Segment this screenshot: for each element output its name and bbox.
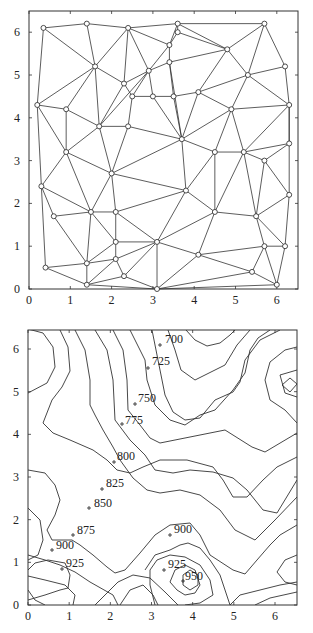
sample-point-marker	[84, 21, 89, 26]
contour-line	[277, 555, 297, 585]
x-tick-label: 3	[150, 293, 156, 307]
edge	[66, 152, 91, 212]
y-tick-label: 4	[13, 427, 19, 441]
edge	[54, 212, 91, 216]
edge	[37, 66, 95, 105]
edge	[157, 242, 198, 255]
x-tick-label: 5	[231, 609, 237, 623]
sample-point-marker	[126, 25, 131, 30]
sample-point-marker	[64, 107, 69, 112]
x-tick-label: 1	[67, 293, 73, 307]
edge	[128, 126, 182, 139]
contour-plot: 0123456012345670072575077580082585087590…	[13, 329, 297, 623]
sample-point-marker	[39, 184, 44, 189]
y-tick-label: 6	[14, 25, 20, 39]
x-tick-label: 4	[191, 293, 197, 307]
sample-point-marker	[287, 192, 292, 197]
contour-level-label: 925	[168, 557, 186, 571]
edge	[248, 24, 265, 75]
edge	[149, 71, 153, 97]
edge	[215, 109, 232, 152]
sample-point-marker	[283, 244, 288, 249]
edge	[244, 152, 256, 216]
sample-point-marker	[155, 239, 160, 244]
x-tick-label: 3	[149, 609, 155, 623]
contour-level-label: 800	[117, 449, 135, 463]
edge	[182, 109, 232, 139]
edge	[116, 212, 157, 242]
edge	[248, 66, 285, 75]
edge	[124, 28, 128, 84]
x-tick-label: 2	[109, 293, 115, 307]
contour-line	[28, 329, 55, 393]
edge	[182, 139, 215, 152]
edge	[37, 105, 66, 152]
edge	[87, 212, 91, 263]
x-tick-label: 4	[190, 609, 196, 623]
sample-point-marker	[113, 209, 118, 214]
x-tick-label: 1	[66, 609, 72, 623]
sample-point-marker	[150, 94, 155, 99]
contour-level-label: 825	[106, 476, 124, 490]
edge	[231, 109, 243, 152]
edge	[231, 105, 289, 109]
edge	[227, 49, 248, 75]
edge	[91, 173, 112, 212]
edge	[264, 161, 289, 195]
edge	[41, 186, 91, 212]
edge	[46, 268, 87, 285]
edge	[128, 96, 132, 126]
x-tick-label: 0	[25, 609, 31, 623]
edge	[124, 242, 157, 276]
y-tick-label: 5	[14, 68, 20, 82]
y-tick-label: 0	[14, 282, 20, 296]
edge	[244, 152, 265, 161]
sample-point-marker	[241, 150, 246, 155]
sample-point-marker	[84, 261, 89, 266]
edge	[248, 75, 289, 105]
x-tick-label: 6	[272, 609, 278, 623]
sample-point-marker	[262, 244, 267, 249]
edge	[256, 161, 264, 217]
sample-point-marker	[274, 282, 279, 287]
sample-point-marker	[171, 94, 176, 99]
edge	[66, 152, 111, 173]
sample-point-marker	[250, 269, 255, 274]
edge	[198, 49, 227, 92]
x-tick-label: 2	[107, 609, 113, 623]
edge	[66, 126, 99, 152]
edge	[66, 109, 99, 126]
edge	[41, 186, 53, 216]
edge	[285, 66, 289, 105]
edge	[87, 242, 116, 263]
edge	[43, 28, 95, 67]
sample-point-marker	[196, 90, 201, 95]
sample-point-marker	[167, 43, 172, 48]
edge	[198, 212, 215, 255]
sample-point-marker	[212, 209, 217, 214]
contour-level-label: 725	[152, 354, 170, 368]
sample-point-marker	[109, 171, 114, 176]
sample-point-marker	[287, 102, 292, 107]
edge	[285, 195, 289, 246]
sample-point-marker	[179, 137, 184, 142]
sample-point-marker	[287, 141, 292, 146]
sample-point-marker	[283, 64, 288, 69]
contour-line	[265, 347, 297, 423]
contour-line	[28, 576, 75, 605]
edge	[37, 105, 66, 109]
edge	[128, 28, 169, 45]
sample-point-marker	[121, 274, 126, 279]
sample-point-marker	[229, 107, 234, 112]
sample-point-marker	[245, 73, 250, 78]
sample-point-marker	[88, 209, 93, 214]
x-tick-label: 0	[26, 293, 32, 307]
sample-point-marker	[93, 64, 98, 69]
y-tick-label: 5	[13, 385, 19, 399]
contour-level-label: 900	[56, 538, 74, 552]
edge	[54, 216, 87, 263]
contour-line	[95, 575, 178, 605]
edge	[277, 246, 285, 285]
triangulation-plot: 01234560123456	[14, 11, 298, 307]
y-tick-label: 3	[13, 470, 19, 484]
